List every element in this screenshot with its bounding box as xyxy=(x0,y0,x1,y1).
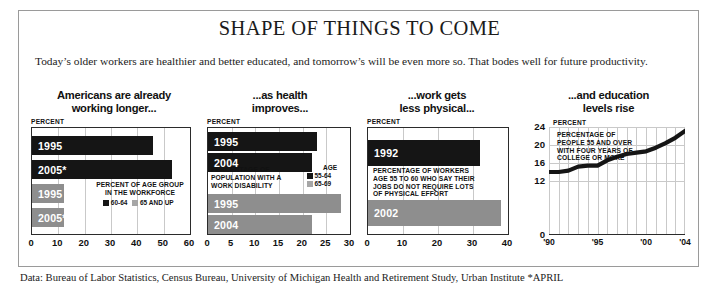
deck-text: Today’s older workers are healthier and … xyxy=(35,55,685,67)
chart-panel-health: ...as healthimproves... PERCENT 19952004… xyxy=(203,89,357,264)
source-caption: Data: Bureau of Labor Statistics, Census… xyxy=(20,272,710,283)
bar-label: 2005* xyxy=(38,212,67,224)
chart-legend-1: 60-6465 AND UP xyxy=(91,199,191,207)
chart-note-3: PERCENTAGE OF WORKERSAGE 55 TO 60 WHO SA… xyxy=(373,167,503,198)
x-tick-label: 20 xyxy=(72,237,96,248)
axis-unit-3: PERCENT xyxy=(367,118,400,125)
x-tick-label: '90 xyxy=(537,237,561,247)
y-tick-label: 12 xyxy=(527,175,545,186)
bar-label: 2002 xyxy=(374,207,398,219)
chart-title-1: Americans are alreadyworking longer... xyxy=(25,89,203,114)
bar-label: 1995 xyxy=(38,188,62,200)
page-title: SHAPE OF THINGS TO COME xyxy=(19,17,700,40)
legend-label: 55-64 xyxy=(315,172,332,179)
chart-note-4: PERCENTAGE OFPEOPLE 55 AND OVERWITH FOUR… xyxy=(557,131,649,162)
legend-item: 60-64 xyxy=(103,199,127,206)
x-tick-label: 10 xyxy=(242,237,266,248)
x-tick-label: 50 xyxy=(151,237,175,248)
legend-label: 65 AND UP xyxy=(140,199,174,206)
chart-note-2: PERCENTAGE OFPOPULATION WITH AWORK DISAB… xyxy=(211,166,297,189)
charts-row: Americans are alreadyworking longer... P… xyxy=(19,89,700,264)
legend-item: 65-69 xyxy=(307,180,348,188)
legend-swatch-dark-icon xyxy=(307,173,313,179)
chart-panel-physical: ...work getsless physical... PERCENT 199… xyxy=(357,89,517,264)
bar: 1995 xyxy=(208,194,341,213)
chart-title-2: ...as healthimproves... xyxy=(203,89,357,114)
x-tick-label: '04 xyxy=(673,237,697,247)
legend-label: 60-64 xyxy=(111,199,128,206)
x-tick-label: 0 xyxy=(355,237,379,248)
legend-item: 55-64 xyxy=(307,172,348,180)
infographic-panel: SHAPE OF THINGS TO COME Today’s older wo… xyxy=(18,10,699,267)
x-tick-label: 10 xyxy=(390,237,414,248)
legend-swatch-dark-icon xyxy=(103,200,109,206)
bar: 1995 xyxy=(208,132,317,151)
chart-title-3: ...work getsless physical... xyxy=(357,89,517,114)
legend-label: 65-69 xyxy=(315,180,332,187)
x-tick-label: 5 xyxy=(219,237,243,248)
legend-swatch-grey-icon xyxy=(132,200,138,206)
bar: 1992 xyxy=(368,140,480,166)
bar: 2002 xyxy=(368,200,501,226)
x-tick-label: 40 xyxy=(495,237,519,248)
bar-label: 1995 xyxy=(214,198,238,210)
x-tick-label: 0 xyxy=(195,237,219,248)
bar-label: 1995 xyxy=(214,136,238,148)
x-tick-label: '00 xyxy=(634,237,658,247)
y-tick-label: 24 xyxy=(527,121,545,132)
legend-title: AGE xyxy=(307,164,353,172)
x-tick-label: 30 xyxy=(98,237,122,248)
legend-swatch-grey-icon xyxy=(307,181,313,187)
x-tick-label: 30 xyxy=(460,237,484,248)
chart-panel-education: ...and educationlevels rise PERCENT 0121… xyxy=(517,89,700,264)
axis-unit-4: PERCENT xyxy=(553,119,586,126)
x-tick-label: 25 xyxy=(313,237,337,248)
bar: 1995 xyxy=(32,184,64,203)
x-tick-label: 20 xyxy=(290,237,314,248)
chart-title-4: ...and educationlevels rise xyxy=(517,89,700,114)
bar: 2004 xyxy=(208,215,312,234)
bar-label: 2004 xyxy=(214,219,238,231)
bar-label: 1992 xyxy=(374,147,398,159)
x-tick-label: 15 xyxy=(266,237,290,248)
legend-item: 65 AND UP xyxy=(132,199,173,206)
bar-label: 2005* xyxy=(38,164,67,176)
bar: 2005* xyxy=(32,208,64,227)
x-tick-label: '95 xyxy=(586,237,610,247)
y-tick-label: 16 xyxy=(527,157,545,168)
y-tick-label: 20 xyxy=(527,139,545,150)
x-tick-label: 0 xyxy=(19,237,43,248)
chart-legend-2: AGE55-6465-69 xyxy=(307,164,353,188)
x-tick-label: 40 xyxy=(124,237,148,248)
axis-unit-1: PERCENT xyxy=(31,118,64,125)
axis-unit-2: PERCENT xyxy=(207,118,240,125)
bar: 2005* xyxy=(32,160,172,179)
chart-panel-workforce: Americans are alreadyworking longer... P… xyxy=(25,89,203,264)
bar: 1995 xyxy=(32,136,153,155)
x-tick-label: 20 xyxy=(425,237,449,248)
bar-label: 1995 xyxy=(38,140,62,152)
x-tick-label: 10 xyxy=(45,237,69,248)
chart-note-1: PERCENT OF AGE GROUPIN THE WORKFORCE xyxy=(91,181,189,197)
